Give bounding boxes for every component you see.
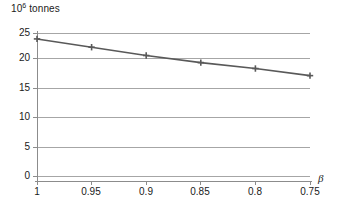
series-markers bbox=[34, 36, 313, 79]
line-chart: 106 tonnes 25 20 15 10 5 0 1 0.95 0.9 0.… bbox=[0, 0, 337, 207]
data-series bbox=[0, 0, 337, 207]
series-line bbox=[37, 39, 310, 76]
